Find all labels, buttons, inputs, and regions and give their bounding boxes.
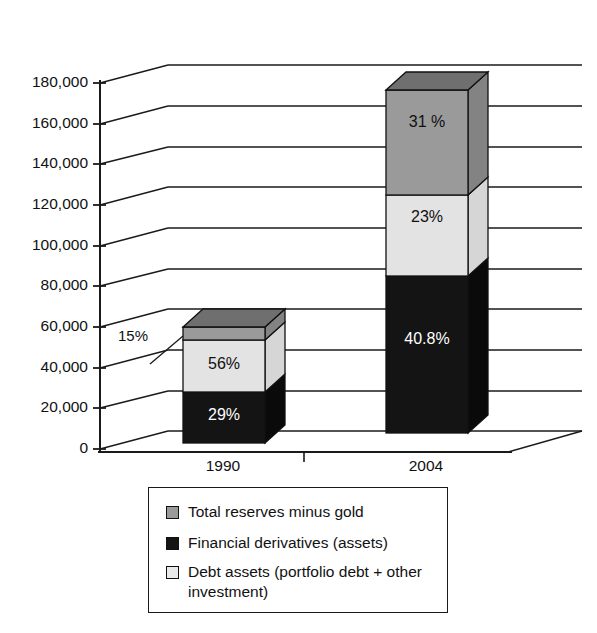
bar-1990-label-debt: 56% <box>183 355 265 373</box>
seg-front <box>386 276 468 433</box>
bar-2004-label-reserves: 31 % <box>386 113 468 131</box>
depth-connector-floor-right <box>508 431 582 452</box>
depth-connector-120000 <box>100 187 168 205</box>
bar-2004-segment-reserves[interactable] <box>386 72 488 195</box>
ytick-label-60000: 60,000 <box>0 317 88 335</box>
legend-label-reserves: Total reserves minus gold <box>188 502 364 522</box>
depth-connector-floor <box>100 431 168 449</box>
bar-1990-label-reserves: 15% <box>112 327 154 344</box>
legend-label-derivatives: Financial derivatives (assets) <box>188 533 388 553</box>
depth-connector-180000 <box>100 65 168 83</box>
gridlines-group <box>100 65 582 452</box>
seg-front <box>183 327 265 340</box>
depth-connector-140000 <box>100 147 168 164</box>
xtick-label-1990: 1990 <box>178 457 268 475</box>
xtick-label-2004: 2004 <box>381 457 471 475</box>
legend-item-debt-assets[interactable]: Debt assets (portfolio debt + other inve… <box>149 562 447 602</box>
ytick-label-120000: 120,000 <box>0 195 88 213</box>
legend-item-financial-derivatives[interactable]: Financial derivatives (assets) <box>149 533 447 553</box>
ytick-label-160000: 160,000 <box>0 114 88 132</box>
ytick-label-0: 0 <box>0 439 88 457</box>
legend-swatch-reserves-icon <box>166 506 179 519</box>
depth-connector-100000 <box>100 228 168 246</box>
ytick-label-80000: 80,000 <box>0 276 88 294</box>
seg-front <box>386 90 468 195</box>
bar-2004-label-debt: 23% <box>386 208 468 226</box>
ytick-label-100000: 100,000 <box>0 236 88 254</box>
bar-1990-label-derivatives: 29% <box>183 406 265 424</box>
depth-connector-60000 <box>100 309 168 327</box>
bar-2004-label-derivatives: 40.8% <box>382 330 472 348</box>
chart-legend: Total reserves minus gold Financial deri… <box>148 487 448 613</box>
legend-swatch-derivatives-icon <box>166 537 179 550</box>
ytick-label-140000: 140,000 <box>0 154 88 172</box>
legend-item-total-reserves-minus-gold[interactable]: Total reserves minus gold <box>149 502 447 522</box>
ytick-label-40000: 40,000 <box>0 358 88 376</box>
legend-swatch-debt-icon <box>166 566 179 579</box>
ytick-label-180000: 180,000 <box>0 73 88 91</box>
legend-label-debt: Debt assets (portfolio debt + other inve… <box>188 562 432 602</box>
chart-svg <box>0 0 597 470</box>
depth-connector-160000 <box>100 106 168 124</box>
bar-1990-segment-reserves[interactable] <box>183 309 285 340</box>
ytick-label-20000: 20,000 <box>0 398 88 416</box>
chart-plot-area: 180,000 160,000 140,000 120,000 100,000 … <box>0 0 597 470</box>
seg-side <box>468 72 488 195</box>
depth-connector-20000 <box>100 391 168 408</box>
depth-connector-80000 <box>100 269 168 286</box>
chart-page: 180,000 160,000 140,000 120,000 100,000 … <box>0 0 597 633</box>
depth-connector-40000 <box>100 350 168 368</box>
